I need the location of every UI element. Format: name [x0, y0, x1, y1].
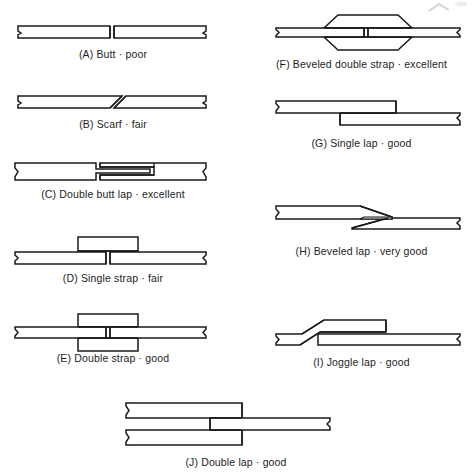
- caption-beveled-double-strap: (F) Beveled double strap · excellent: [250, 58, 473, 70]
- figure-double-lap: [118, 396, 358, 452]
- caption-single-strap: (D) Single strap · fair: [0, 272, 226, 284]
- caption-butt: (A) Butt · poor: [0, 48, 226, 60]
- caption-scarf: (B) Scarf · fair: [0, 118, 226, 130]
- figure-joggle-lap: [268, 308, 468, 352]
- caption-beveled-lap: (H) Beveled lap · very good: [250, 245, 473, 257]
- figure-single-strap: [10, 228, 212, 268]
- figure-butt: [14, 20, 210, 44]
- figure-single-lap: [268, 92, 468, 134]
- joint-diagram-sheet: (A) Butt · poor (B) Scarf · fair: [0, 0, 473, 475]
- caption-double-lap: (J) Double lap · good: [110, 456, 362, 468]
- caption-double-butt-lap: (C) Double butt lap · excellent: [0, 188, 226, 200]
- figure-beveled-lap: [268, 198, 468, 240]
- caption-double-strap: (E) Double strap · good: [0, 352, 226, 364]
- caption-single-lap: (G) Single lap · good: [250, 137, 473, 149]
- figure-scarf: [14, 90, 210, 114]
- caption-joggle-lap: (I) Joggle lap · good: [250, 356, 473, 368]
- figure-double-butt-lap: [10, 158, 212, 186]
- figure-double-strap: [10, 308, 212, 356]
- figure-beveled-double-strap: [268, 8, 468, 58]
